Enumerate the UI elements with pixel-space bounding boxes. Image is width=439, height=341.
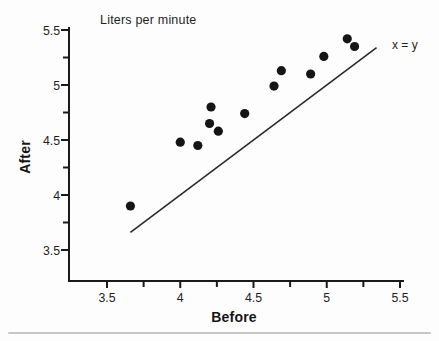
- scatterplot-figure: 3.544.555.53.544.555.5 Liters per minute…: [0, 0, 439, 341]
- data-point: [176, 138, 185, 147]
- data-point: [306, 69, 315, 78]
- x-tick-label: 5.5: [391, 291, 408, 305]
- data-point: [193, 141, 202, 150]
- y-tick-label: 5.5: [43, 24, 60, 38]
- data-point: [205, 119, 214, 128]
- x-tick-label: 5: [323, 291, 330, 305]
- data-point: [240, 109, 249, 118]
- identity-line: [130, 48, 376, 233]
- identity-line-label: x = y: [392, 38, 418, 52]
- y-tick-label: 4: [53, 189, 60, 203]
- y-tick-label: 3.5: [43, 244, 60, 258]
- x-tick-label: 3.5: [98, 291, 115, 305]
- chart-title: Liters per minute: [100, 13, 197, 27]
- data-point: [319, 52, 328, 61]
- data-point: [350, 42, 359, 51]
- page-divider: [8, 332, 431, 334]
- y-tick-label: 4.5: [43, 134, 60, 148]
- y-axis-title: After: [17, 140, 33, 174]
- data-point: [343, 34, 352, 43]
- y-tick-label: 5: [53, 79, 60, 93]
- x-tick-label: 4.5: [245, 291, 262, 305]
- x-axis-title: Before: [211, 309, 257, 325]
- data-point: [269, 82, 278, 91]
- data-point: [206, 102, 215, 111]
- data-point: [277, 66, 286, 75]
- data-point: [126, 201, 135, 210]
- x-tick-label: 4: [177, 291, 184, 305]
- data-point: [214, 127, 223, 136]
- scatter-plot-canvas: 3.544.555.53.544.555.5: [0, 0, 439, 341]
